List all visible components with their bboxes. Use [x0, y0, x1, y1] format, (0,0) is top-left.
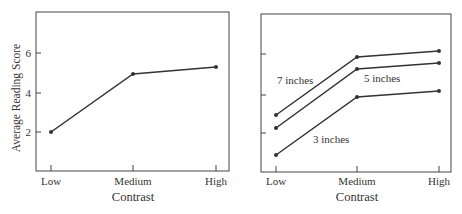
- data-point: [437, 61, 441, 65]
- annotation-7-inches: 7 inches: [277, 74, 313, 86]
- right-x-axis-title: Contrast: [336, 190, 379, 204]
- left-chart: 6 4 2 Low Medium High Contrast Average R…: [10, 12, 229, 204]
- data-point: [274, 153, 278, 157]
- left-plot-frame: [36, 12, 229, 171]
- left-xtick-label-low: Low: [41, 175, 61, 187]
- left-ytick-label-6: 6: [26, 47, 32, 59]
- annotation-3-inches: 3 inches: [313, 133, 349, 145]
- data-point: [49, 130, 53, 134]
- data-point: [437, 89, 441, 93]
- data-point: [355, 67, 359, 71]
- right-chart: Low Medium High Contrast 7 inches 5 inch…: [261, 14, 451, 204]
- data-point: [355, 95, 359, 99]
- data-point: [437, 49, 441, 53]
- right-xtick-label-high: High: [428, 175, 451, 187]
- data-point: [274, 113, 278, 117]
- series-3-inches-line: [276, 91, 439, 155]
- data-point: [274, 126, 278, 130]
- left-ytick-label-2: 2: [26, 126, 32, 138]
- data-point: [214, 65, 218, 69]
- right-plot-frame: [261, 14, 451, 172]
- right-xtick-label-low: Low: [266, 175, 286, 187]
- left-xtick-label-medium: Medium: [114, 175, 152, 187]
- right-xtick-label-medium: Medium: [338, 175, 376, 187]
- left-x-axis-title: Contrast: [112, 190, 155, 204]
- data-point: [131, 72, 135, 76]
- annotation-5-inches: 5 inches: [364, 72, 400, 84]
- left-series-line: [51, 67, 216, 132]
- chart-canvas: 6 4 2 Low Medium High Contrast Average R…: [0, 0, 462, 214]
- left-y-axis-title: Average Reading Score: [10, 44, 23, 152]
- left-ytick-label-4: 4: [26, 87, 32, 99]
- left-xtick-label-high: High: [205, 175, 228, 187]
- data-point: [355, 55, 359, 59]
